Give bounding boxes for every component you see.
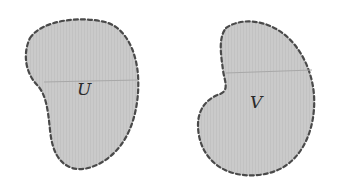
region-u: U — [26, 19, 138, 169]
region-u-label: U — [77, 79, 92, 99]
region-v-label: V — [250, 92, 264, 112]
open-sets-diagram: U V — [0, 0, 337, 196]
region-v: V — [198, 21, 314, 175]
